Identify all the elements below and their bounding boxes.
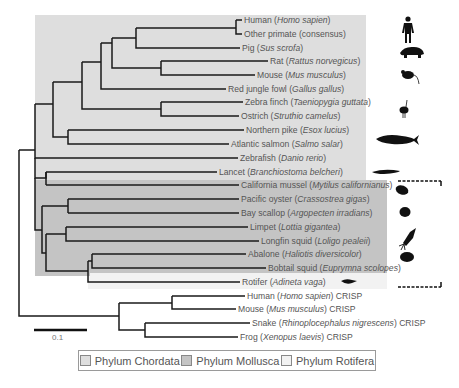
leaf-label-human-crisp: Human (Homo sapien) CRISP	[247, 291, 362, 301]
leaf-label-frog-crisp: Frog (Xenopus laevis) CRISP	[240, 332, 353, 342]
legend: Phylum Chordata Phylum Mollusca Phylum R…	[78, 350, 376, 371]
leaf-label-zebrafish: Zebrafish (Danio rerio)	[240, 153, 326, 163]
leaf-label-pig: Pig (Sus scrofa)	[242, 43, 303, 53]
leaf-label-longfin-squid: Longfin squid (Loligo pealeii)	[261, 236, 371, 246]
scallop-silhouette-icon	[400, 207, 411, 217]
legend-swatch-mollusca	[181, 355, 192, 366]
mouse-silhouette-icon	[401, 70, 419, 84]
leaf-label-ostrich: Ostrich (Struthio camelus)	[241, 111, 340, 121]
leaf-label-lancet: Lancet (Branchiostoma belcheri)	[219, 167, 343, 177]
legend-item-mollusca: Phylum Mollusca	[181, 355, 279, 367]
leaf-label-atlantic-salmon: Atlantic salmon (Salmo salar)	[231, 139, 343, 149]
legend-item-rotifera: Phylum Rotifera	[281, 355, 374, 367]
lancelet-silhouette-icon	[372, 170, 400, 174]
leaf-label-snake-crisp: Snake (Rhinoplocephalus nigrescens) CRIS…	[252, 318, 426, 328]
legend-label-rotifera: Phylum Rotifera	[296, 355, 374, 367]
leaf-label-mouse-crisp: Mouse (Mus musculus) CRISP	[238, 304, 356, 314]
pig-silhouette-icon	[400, 47, 424, 58]
leaf-label-mouse: Mouse (Mus musculus)	[257, 70, 346, 80]
leaf-label-northern-pike: Northern pike (Esox lucius)	[246, 125, 349, 135]
leaf-label-california-mussel: California mussel (Mytilus californianus…	[241, 180, 393, 190]
scale-bar-label: 0.1	[52, 333, 63, 342]
leaf-label-other-primate: Other primate (consensus)	[244, 29, 346, 39]
legend-item-chordata: Phylum Chordata	[80, 355, 180, 367]
leaf-label-pacific-oyster: Pacific oyster (Crassostrea gigas)	[241, 194, 370, 204]
ostrich-silhouette-icon	[400, 100, 409, 118]
phylogenetic-tree: Human (Homo sapien) Other primate (conse…	[0, 0, 459, 388]
leaf-label-rotifer: Rotifer (Adineta vaga)	[242, 277, 326, 287]
fish-silhouette-icon	[376, 135, 419, 145]
leaf-label-rat: Rat (Rattus norvegicus)	[270, 56, 360, 66]
mollusca-region-lower	[35, 180, 90, 276]
leaf-label-bobtail-squid: Bobtail squid (Euprymna scolopes)	[268, 263, 401, 273]
mussel-silhouette-icon	[394, 184, 409, 197]
legend-swatch-rotifera	[281, 355, 292, 366]
abalone-silhouette-icon	[400, 252, 414, 262]
leaf-label-human: Human (Homo sapien)	[244, 15, 331, 25]
chordata-region	[35, 15, 148, 180]
human-silhouette-icon	[402, 16, 414, 43]
squid-silhouette-icon	[399, 228, 416, 250]
legend-label-chordata: Phylum Chordata	[95, 355, 180, 367]
leaf-label-bay-scallop: Bay scallop (Argopecten irradians)	[241, 208, 373, 218]
leaf-label-abalone: Abalone (Haliotis diversicolor)	[248, 249, 362, 259]
leaf-label-red-jungle-fowl: Red jungle fowl (Gallus gallus)	[228, 84, 344, 94]
legend-label-mollusca: Phylum Mollusca	[196, 355, 279, 367]
mollusca-bracket	[398, 181, 441, 287]
legend-swatch-chordata	[80, 355, 91, 366]
leaf-label-limpet: Limpet (Lottia gigantea)	[250, 222, 340, 232]
leaf-label-zebra-finch: Zebra finch (Taeniopygia guttata)	[245, 97, 371, 107]
